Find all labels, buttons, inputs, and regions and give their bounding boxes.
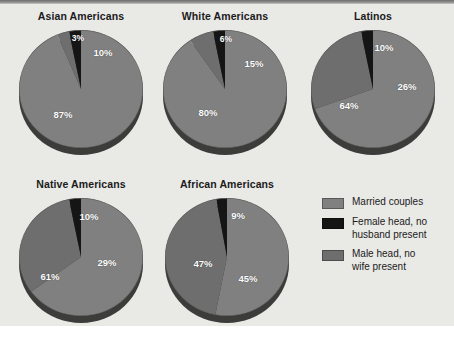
slice-label-female-head: 26% <box>397 81 416 92</box>
pie-svg <box>165 198 289 316</box>
slice-label-male-head: 3% <box>72 33 84 43</box>
pie-face <box>19 30 143 148</box>
pie-title-african-americans: African Americans <box>152 178 302 190</box>
slice-label-married: 64% <box>339 100 358 111</box>
pie-cell-white-americans: White Americans 80% 15% 6% <box>152 10 298 160</box>
slice-label-female-head: 15% <box>244 58 263 69</box>
legend-swatch-male-head <box>322 250 344 261</box>
pie-cell-african-americans: African Americans 47% 45% 9% <box>152 178 302 330</box>
pie-title-asian-americans: Asian Americans <box>8 10 154 22</box>
pie-cell-asian-americans: Asian Americans 87% 10% 3 <box>8 10 154 160</box>
pie-cell-latinos: Latinos 64% 26% 10% <box>298 10 448 160</box>
legend-label-married-couples: Married couples <box>352 196 423 209</box>
pie-graphic-african-americans: 47% 45% 9% <box>165 198 289 326</box>
pie-svg <box>163 30 287 148</box>
pie-face <box>165 198 289 316</box>
pie-graphic-native-americans: 61% 29% 10% <box>19 198 143 326</box>
slice-label-married: 80% <box>198 107 217 118</box>
legend-label-female-head: Female head, no husband present <box>352 216 427 241</box>
slice-label-male-head: 10% <box>79 211 98 222</box>
slice-label-female-head: 29% <box>97 257 116 268</box>
pie-graphic-asian-americans: 87% 10% 3% <box>19 30 143 158</box>
pie-title-native-americans: Native Americans <box>8 178 154 190</box>
legend-swatch-female-head <box>322 218 344 229</box>
slice-label-married: 47% <box>193 258 212 269</box>
legend-label-male-head: Male head, no wife present <box>352 248 415 273</box>
legend-item-married-couples: Married couples <box>322 196 452 209</box>
slice-label-male-head: 10% <box>374 42 393 53</box>
legend-swatch-married-couples <box>322 198 344 209</box>
slice-label-male-head: 9% <box>231 210 245 221</box>
pie-title-white-americans: White Americans <box>152 10 298 22</box>
pie-face <box>163 30 287 148</box>
legend: Married couples Female head, no husband … <box>322 196 452 280</box>
slice-label-male-head: 6% <box>220 34 232 44</box>
pie-graphic-latinos: 64% 26% 10% <box>311 30 435 158</box>
pie-graphic-white-americans: 80% 15% 6% <box>163 30 287 158</box>
legend-item-female-head: Female head, no husband present <box>322 216 452 241</box>
slice-label-married: 87% <box>53 109 72 120</box>
slice-label-female-head: 45% <box>238 273 257 284</box>
legend-item-male-head: Male head, no wife present <box>322 248 452 273</box>
slice-label-married: 61% <box>40 271 59 282</box>
pie-svg <box>19 30 143 148</box>
pie-chart-figure: Asian Americans 87% 10% 3 <box>0 0 454 339</box>
pie-title-latinos: Latinos <box>298 10 448 22</box>
slice-label-female-head: 10% <box>93 47 112 58</box>
pie-cell-native-americans: Native Americans 61% 29% 10% <box>8 178 154 330</box>
